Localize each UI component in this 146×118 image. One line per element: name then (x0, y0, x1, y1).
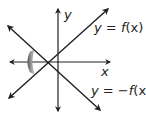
line-neg-f (8, 26, 100, 110)
line-f-label: y = f(x) (93, 20, 143, 35)
x-axis-label: x (100, 64, 109, 79)
reflection-diagram: y x y = f(x) y = −f(x) (0, 0, 146, 118)
line-neg-f-label: y = −f(x) (90, 83, 146, 98)
y-axis-label: y (63, 7, 72, 22)
